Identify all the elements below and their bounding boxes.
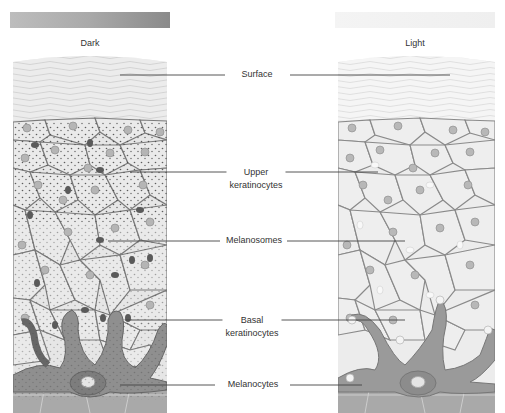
light-skin-column xyxy=(338,50,495,413)
label-melanosomes: Melanosomes xyxy=(223,234,285,247)
label-melanocytes-text: Melanocytes xyxy=(228,379,279,389)
label-melanosomes-text: Melanosomes xyxy=(226,235,282,245)
label-basal-line1: Basal xyxy=(225,314,278,327)
label-melanocytes: Melanocytes xyxy=(225,378,282,391)
label-surface-text: Surface xyxy=(241,69,272,79)
label-upper-line2: keratinocytes xyxy=(229,179,282,192)
label-upper-line1: Upper xyxy=(229,166,282,179)
dark-skin-column xyxy=(13,50,167,413)
label-basal-line2: keratinocytes xyxy=(225,327,278,340)
label-surface: Surface xyxy=(238,68,275,81)
dark-surface-layer xyxy=(13,50,167,120)
label-upper-keratinocytes: Upper keratinocytes xyxy=(226,166,285,192)
light-surface-layer xyxy=(338,50,495,120)
skin-cross-section-diagram xyxy=(0,0,505,413)
label-basal-keratinocytes: Basal keratinocytes xyxy=(222,314,281,340)
